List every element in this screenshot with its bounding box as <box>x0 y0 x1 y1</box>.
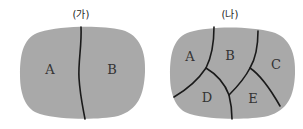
panel-na: (나) A B C D E <box>170 9 295 119</box>
panel-title: (가) <box>73 9 90 20</box>
region-label-b: B <box>107 62 117 77</box>
region-label-e: E <box>248 91 258 106</box>
region-label-c: C <box>271 57 281 72</box>
panel-title: (나) <box>222 9 239 20</box>
landmass-shape <box>170 28 295 119</box>
region-label-b: B <box>225 48 235 63</box>
diagram: (가) A B (나) A B C D E <box>0 0 303 129</box>
region-label-d: D <box>202 90 212 105</box>
region-label-a: A <box>184 49 195 64</box>
panel-ga: (가) A B <box>20 9 145 119</box>
region-label-a: A <box>44 62 55 77</box>
